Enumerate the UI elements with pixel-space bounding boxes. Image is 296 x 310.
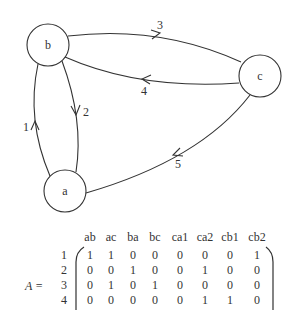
matrix-col-header: ba [127,230,139,244]
matrix-row-label: 3 [61,278,67,292]
matrix-cell: 1 [108,248,114,262]
matrix-col-header: ab [84,230,95,244]
node-a-label: a [62,184,68,198]
matrix-cell: 0 [108,293,114,307]
edge-label-4: 4 [141,84,147,98]
matrix-cell: 0 [202,248,208,262]
edge-5 [86,95,250,193]
node-c-label: c [257,69,262,83]
matrix-row-1: 1 1 0 0 0 0 0 1 [87,248,260,262]
matrix-row-2: 0 0 1 0 0 1 0 0 [87,263,260,277]
edge-4 [65,57,239,84]
matrix-col-header: ca1 [172,230,189,244]
matrix-cell: 1 [254,248,260,262]
matrix-cell: 0 [202,278,208,292]
matrix-row-label: 1 [61,248,67,262]
matrix-row-label: 2 [61,263,67,277]
matrix-cell: 0 [152,263,158,277]
edge-label-5: 5 [175,157,181,171]
matrix-col-header: bc [149,230,160,244]
matrix-column-headers: ab ac ba bc ca1 ca2 cb1 cb2 [84,230,265,244]
matrix-cell: 1 [202,263,208,277]
matrix-cell: 0 [152,293,158,307]
matrix-cell: 1 [108,278,114,292]
matrix-cell: 0 [177,248,183,262]
matrix-cell: 1 [130,263,136,277]
incidence-matrix: ab ac ba bc ca1 ca2 cb1 cb2 A = 1 2 3 4 … [24,230,273,310]
matrix-name-label: A = [24,279,43,293]
matrix-cell: 0 [227,248,233,262]
matrix-cell: 0 [130,248,136,262]
node-b: b [27,24,69,66]
matrix-cell: 0 [108,263,114,277]
matrix-cell: 0 [254,293,260,307]
matrix-cell: 0 [177,293,183,307]
matrix-cell: 1 [152,278,158,292]
edge-5-arrowhead-icon [173,148,183,156]
matrix-cell: 0 [177,263,183,277]
matrix-cell: 0 [254,278,260,292]
matrix-cell: 0 [254,263,260,277]
matrix-cell: 1 [87,248,93,262]
node-a: a [44,170,86,212]
matrix-cell: 0 [87,263,93,277]
matrix-right-bracket [266,247,273,310]
matrix-cell: 1 [202,293,208,307]
matrix-row-3: 0 1 0 1 0 0 0 0 [87,278,260,292]
edge-1-arrowhead-icon [31,121,39,130]
edge-label-2: 2 [83,105,89,119]
matrix-cell: 0 [227,278,233,292]
edge-2 [62,61,78,172]
edge-1 [34,64,50,176]
matrix-col-header: cb1 [221,230,238,244]
matrix-cell: 1 [227,293,233,307]
matrix-cell: 0 [152,248,158,262]
matrix-col-header: cb2 [248,230,265,244]
matrix-row-label: 4 [61,293,67,307]
matrix-cell: 0 [177,278,183,292]
matrix-cell: 0 [227,263,233,277]
matrix-col-header: ac [106,230,117,244]
matrix-row-labels: 1 2 3 4 [61,248,67,307]
matrix-left-bracket [76,247,84,310]
matrix-cell: 0 [87,293,93,307]
matrix-col-header: ca2 [197,230,214,244]
matrix-cell: 0 [130,293,136,307]
matrix-cell: 0 [130,278,136,292]
edge-label-1: 1 [23,120,29,134]
graph-and-matrix-diagram: 1 2 3 4 5 b c a ab ac ba bc ca1 ca2 cb1 … [0,0,296,310]
edge-4-arrowhead-icon [142,75,151,84]
matrix-row-4: 0 0 0 0 0 1 1 0 [87,293,260,307]
node-b-label: b [45,38,51,52]
node-c: c [239,55,281,97]
edge-label-3: 3 [157,18,163,32]
matrix-cell: 0 [87,278,93,292]
